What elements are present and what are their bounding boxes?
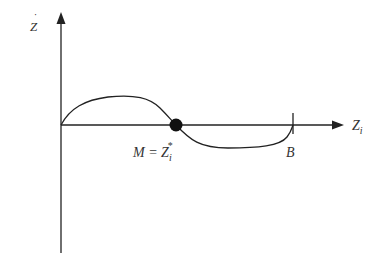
b-label: B [286, 145, 295, 160]
y-axis-label-dot: ˙ [33, 11, 37, 23]
phase-diagram: Z ˙ Zi M = Zi* B [0, 0, 389, 265]
equilibrium-label: M = Zi* [132, 140, 173, 163]
equilibrium-point-dot [170, 119, 183, 132]
y-axis-arrow-icon [57, 12, 66, 24]
x-axis-label: Zi [352, 118, 363, 136]
x-axis-arrow-icon [332, 121, 344, 130]
